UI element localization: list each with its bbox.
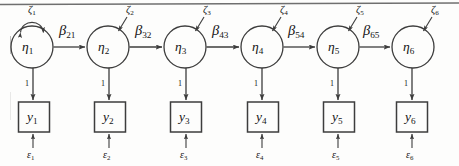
observed-label-y-1: y1 bbox=[27, 110, 38, 126]
disturbance-label-zeta-5: ζ5 bbox=[356, 5, 364, 17]
loading-label-1: 1 bbox=[25, 80, 29, 88]
latent-label-eta-2: η2 bbox=[98, 40, 109, 56]
residual-label-epsilon-4: ε4 bbox=[256, 150, 263, 162]
disturbance-arrow-zeta-4 bbox=[273, 17, 282, 31]
loading-label-5: 1 bbox=[330, 80, 334, 88]
path-label-beta-21: β21 bbox=[59, 23, 76, 40]
latent-label-eta-3: η3 bbox=[175, 40, 186, 56]
observed-label-y-3: y3 bbox=[179, 110, 190, 126]
latent-label-eta-6: η6 bbox=[403, 40, 414, 56]
top-rule bbox=[0, 3, 459, 5]
residual-label-epsilon-1: ε1 bbox=[27, 150, 34, 162]
path-diagram-figure: η1 η2 η3 η4 η5 η6 y1 y2 y3 y4 y5 y6 β21 … bbox=[0, 0, 459, 166]
path-label-beta-43: β43 bbox=[212, 23, 229, 40]
loading-label-2: 1 bbox=[101, 80, 105, 88]
observed-label-y-6: y6 bbox=[405, 110, 416, 126]
residual-label-epsilon-6: ε6 bbox=[406, 150, 413, 162]
disturbance-label-zeta-6: ζ6 bbox=[431, 5, 439, 17]
loading-label-3: 1 bbox=[178, 80, 182, 88]
disturbance-arrow-zeta-6 bbox=[424, 17, 433, 31]
path-label-beta-54: β54 bbox=[288, 23, 305, 40]
path-label-beta-32: β32 bbox=[135, 23, 152, 40]
disturbance-label-zeta-3: ζ3 bbox=[203, 5, 211, 17]
disturbance-label-zeta-1: ζ1 bbox=[28, 5, 36, 17]
disturbance-arrow-zeta-3 bbox=[196, 17, 205, 31]
loading-label-6: 1 bbox=[404, 80, 408, 88]
path-label-beta-65: β65 bbox=[363, 23, 380, 40]
loading-label-4: 1 bbox=[254, 80, 258, 88]
observed-label-y-4: y4 bbox=[256, 110, 267, 126]
disturbance-label-zeta-2: ζ2 bbox=[126, 5, 134, 17]
observed-label-y-2: y2 bbox=[103, 110, 114, 126]
disturbance-arrow-zeta-5 bbox=[349, 17, 358, 31]
disturbance-arrow-zeta-2 bbox=[119, 17, 128, 31]
residual-label-epsilon-3: ε3 bbox=[180, 150, 187, 162]
latent-label-eta-5: η5 bbox=[328, 40, 339, 56]
latent-label-eta-4: η4 bbox=[252, 40, 263, 56]
disturbance-label-zeta-4: ζ4 bbox=[280, 5, 288, 17]
latent-label-eta-1: η1 bbox=[22, 40, 33, 56]
residual-label-epsilon-5: ε5 bbox=[332, 150, 339, 162]
observed-label-y-5: y5 bbox=[332, 110, 343, 126]
residual-label-epsilon-2: ε2 bbox=[103, 150, 110, 162]
